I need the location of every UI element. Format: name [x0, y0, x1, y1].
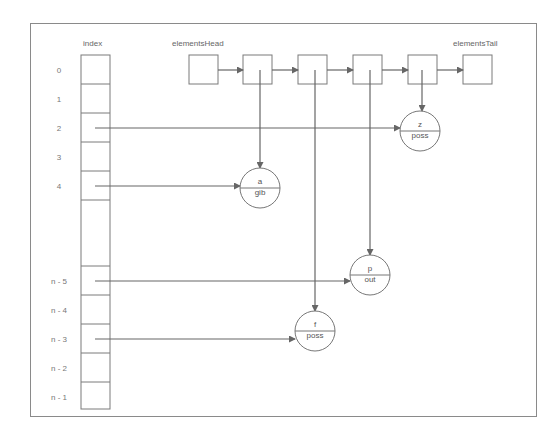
- node-value: poss: [400, 131, 440, 140]
- head-box: [189, 55, 218, 84]
- diagram-graphics: [0, 0, 556, 445]
- list-box: [353, 55, 382, 84]
- node-value: gib: [240, 188, 280, 197]
- list-box: [298, 55, 327, 84]
- tail-box: [463, 55, 492, 84]
- list-box: [243, 55, 272, 84]
- index-array: [81, 55, 110, 409]
- node-key: a: [240, 177, 280, 186]
- node-value: poss: [295, 331, 335, 340]
- node-key: z: [400, 120, 440, 129]
- node-value: out: [350, 275, 390, 284]
- node-key: p: [350, 264, 390, 273]
- node-key: f: [295, 320, 335, 329]
- hash-linked-list-diagram: index elementsHead elementsTail 0 1 2 3 …: [0, 0, 556, 445]
